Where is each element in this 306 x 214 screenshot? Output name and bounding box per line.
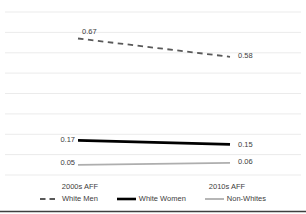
data-label-non-whites-left: 0.05 — [48, 159, 75, 167]
legend-item-non-whites: Non-Whites — [205, 194, 266, 203]
legend-label-white-women: White Women — [139, 194, 186, 203]
data-label-non-whites-right: 0.06 — [238, 158, 253, 166]
dashed-line-swatch — [40, 197, 59, 201]
line-chart-figure: 0.67 0.58 0.17 0.15 0.05 0.06 2000s AFF … — [0, 0, 306, 214]
legend-item-white-men: White Men — [40, 194, 98, 203]
data-label-white-women-left: 0.17 — [48, 136, 75, 144]
legend-label-white-men: White Men — [62, 194, 98, 203]
legend: White Men White Women Non-Whites — [0, 194, 306, 203]
data-label-white-men-right: 0.58 — [238, 52, 253, 60]
data-label-white-women-right: 0.15 — [238, 141, 253, 149]
legend-label-non-whites: Non-Whites — [227, 194, 266, 203]
x-axis-label-2000s: 2000s AFF — [50, 183, 110, 191]
solid-black-line-swatch — [117, 197, 136, 201]
legend-item-white-women: White Women — [117, 194, 186, 203]
line-chart-canvas — [0, 0, 306, 214]
x-axis-label-2010s: 2010s AFF — [197, 183, 257, 191]
solid-gray-line-swatch — [205, 197, 224, 201]
data-label-white-men-left: 0.67 — [82, 28, 97, 36]
